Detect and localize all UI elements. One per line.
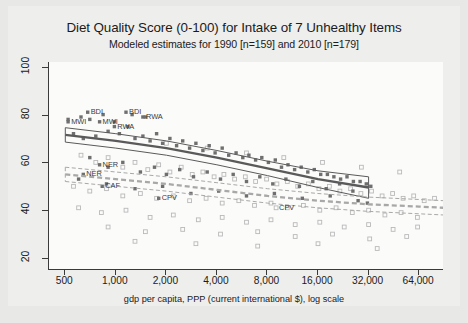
data-point <box>144 230 148 234</box>
data-point <box>153 166 156 169</box>
data-point <box>201 149 204 152</box>
data-point <box>146 168 150 172</box>
labeled-data-point <box>124 111 127 114</box>
data-point <box>332 175 335 178</box>
data-point <box>192 175 195 178</box>
data-point <box>100 211 104 215</box>
data-point <box>293 235 297 239</box>
data-point <box>88 156 91 159</box>
data-point <box>321 161 325 165</box>
data-point <box>194 242 198 246</box>
data-point <box>360 165 364 169</box>
y-tick-label: 100 <box>20 50 31 80</box>
data-point <box>181 139 184 142</box>
data-point <box>243 175 247 179</box>
labeled-data-point <box>157 197 160 200</box>
data-point <box>367 223 371 227</box>
data-point <box>194 142 197 145</box>
data-point <box>405 235 409 239</box>
data-point <box>369 185 372 188</box>
x-axis-title: gdp per capita, PPP (current internation… <box>8 294 460 304</box>
point-label-ner: NER <box>103 160 119 169</box>
data-point <box>188 199 192 203</box>
data-point <box>274 158 277 161</box>
data-point <box>293 223 297 227</box>
data-point <box>157 163 161 167</box>
data-point <box>245 220 249 224</box>
data-point <box>206 170 209 173</box>
data-point <box>326 173 329 176</box>
point-label-rwa: RWA <box>146 112 163 121</box>
data-point <box>161 185 164 188</box>
labeled-data-point <box>274 206 278 210</box>
data-point <box>433 196 437 200</box>
data-point <box>356 199 359 202</box>
data-point <box>213 151 216 154</box>
data-point <box>351 189 354 192</box>
data-point <box>416 225 420 229</box>
data-point <box>350 211 354 215</box>
confidence-band-edge <box>65 128 368 177</box>
data-point <box>178 168 181 171</box>
y-tick-label: 60 <box>20 146 31 176</box>
point-label-mwi: MWI <box>103 117 118 126</box>
data-point <box>339 177 342 180</box>
data-point <box>221 146 224 149</box>
data-point <box>175 144 178 147</box>
data-point <box>301 197 304 200</box>
data-point <box>124 208 128 212</box>
data-point <box>72 184 76 188</box>
data-point <box>196 218 200 222</box>
point-label-cpv: CPV <box>162 193 177 202</box>
data-point <box>256 244 260 248</box>
chart-title: Diet Quality Score (0-100) for Intake of… <box>8 20 460 35</box>
data-point <box>161 142 164 145</box>
data-point <box>106 225 110 229</box>
data-point <box>260 156 263 159</box>
labeled-data-point <box>86 111 89 114</box>
data-point <box>245 194 248 197</box>
data-point <box>416 216 420 220</box>
data-point <box>168 137 171 140</box>
data-point <box>318 220 322 224</box>
data-point <box>171 213 175 217</box>
point-label-rwa: RWA <box>117 122 134 131</box>
data-point <box>247 154 250 157</box>
data-point <box>181 228 185 232</box>
data-point <box>188 146 191 149</box>
data-point <box>383 213 387 217</box>
point-label-cpv: CPV <box>279 203 294 212</box>
data-point <box>148 139 151 142</box>
data-point <box>77 206 81 210</box>
point-label-mwi: MWI <box>71 117 86 126</box>
data-point <box>133 239 137 243</box>
data-point <box>155 132 158 135</box>
data-point <box>139 192 143 196</box>
data-point <box>94 161 98 165</box>
data-point <box>265 177 269 181</box>
data-point <box>88 118 91 121</box>
chart-subtitle: Modeled estimates for 1990 [n=159] and 2… <box>8 38 460 50</box>
point-label-caf: CAF <box>105 181 120 190</box>
data-point <box>282 156 286 160</box>
data-point <box>365 182 368 185</box>
data-point <box>391 192 395 196</box>
data-point <box>232 173 235 176</box>
data-point <box>359 192 363 196</box>
data-point <box>328 184 332 188</box>
data-point <box>79 153 83 157</box>
data-point <box>258 175 261 178</box>
data-point <box>368 237 372 241</box>
data-point <box>139 170 142 173</box>
labeled-data-point <box>66 120 69 123</box>
chart-figure: Diet Quality Score (0-100) for Intake of… <box>8 6 460 306</box>
data-point <box>121 161 124 164</box>
data-point <box>254 180 258 184</box>
y-tick-label: 80 <box>20 98 31 128</box>
data-point <box>380 194 384 198</box>
data-point <box>165 173 168 176</box>
data-point <box>204 196 208 200</box>
data-point <box>311 180 314 183</box>
data-point <box>88 189 92 193</box>
data-point <box>133 161 137 165</box>
